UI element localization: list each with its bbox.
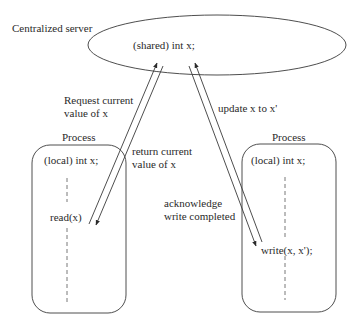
shared-variable-label: (shared) int x;: [133, 39, 195, 51]
left-local-variable: (local) int x;: [44, 154, 98, 166]
ack-label-line2: write completed: [164, 210, 235, 222]
return-label-line2: value of x: [132, 158, 176, 170]
return-label-line1: return current: [132, 145, 192, 157]
right-local-variable: (local) int x;: [251, 154, 305, 166]
request-label-line1: Request current: [64, 94, 133, 106]
left-process-title: Process: [62, 131, 96, 143]
server-ellipse: [88, 15, 346, 75]
request-label-line2: value of x: [64, 107, 108, 119]
request-arrow: [89, 63, 157, 224]
centralized-server-diagram: Centralized server (shared) int x; Reque…: [0, 0, 362, 330]
server-label: Centralized server: [12, 22, 92, 34]
update-label: update x to x': [218, 102, 277, 114]
right-process-title: Process: [272, 131, 306, 143]
right-write-operation: write(x, x');: [261, 244, 312, 256]
ack-label-line1: acknowledge: [164, 197, 222, 209]
right-process-box: [242, 144, 336, 312]
left-read-operation: read(x): [50, 211, 82, 223]
